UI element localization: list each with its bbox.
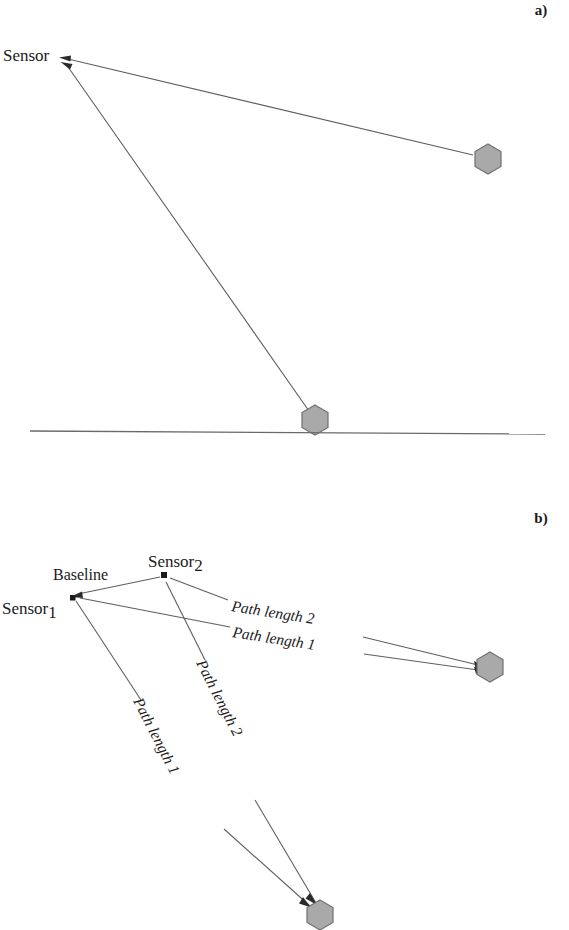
panel-a-ray-ground-target (66, 64, 309, 411)
panel-b-group: Sensor2 Sensor1 Baseline Path length 2 P… (2, 510, 548, 930)
panel-b-sensor1-node (70, 595, 76, 601)
panel-b-sensor2-label-text: Sensor (148, 552, 195, 571)
panel-b-sensor2-label: Sensor2 (148, 552, 203, 575)
panel-b-target-right-hexagon (477, 652, 503, 682)
panel-a-sensor-label: Sensor (3, 46, 50, 65)
panel-b-path1-right-seg2 (364, 654, 478, 670)
panel-b-sensor2-node (161, 572, 167, 578)
panel-b-path1-right-seg1 (80, 598, 230, 627)
panel-a-target-air-hexagon (475, 144, 501, 174)
panel-a-target-ground-hexagon (302, 405, 328, 435)
panel-b-path-length-2-lower-label: Path length 2 (193, 656, 247, 739)
panel-b-sensor1-label: Sensor1 (2, 599, 57, 622)
panel-b-path2-right-seg2 (363, 637, 478, 665)
panel-b-path-length-1-upper-label: Path length 1 (231, 623, 317, 653)
panel-b-target-bottom-hexagon (307, 900, 333, 930)
panel-b-sensor2-subscript: 2 (194, 556, 203, 575)
panel-b-baseline-label: Baseline (53, 566, 108, 583)
panel-b-path-length-1-lower-label: Path length 1 (130, 694, 184, 777)
panel-a-arrowhead-air (59, 56, 71, 62)
panel-b-path-length-2-upper-label: Path length 2 (230, 597, 316, 627)
panel-b-path2-bottom-seg2 (255, 800, 316, 903)
panel-a-ground-line (30, 431, 545, 434)
panel-a-ray-air-target (68, 59, 473, 155)
panel-b-tag: b) (534, 510, 547, 527)
panel-a-arrowhead-ground (61, 62, 73, 70)
panel-a-tag: a) (535, 2, 548, 19)
diagram-canvas: Sensor a) (0, 0, 569, 930)
panel-b-path1-bottom-seg1 (76, 601, 141, 700)
panel-b-sensor1-subscript: 1 (48, 603, 57, 622)
panel-a-group: Sensor a) (3, 2, 547, 435)
panel-b-sensor1-label-text: Sensor (2, 599, 49, 618)
panel-b-path1-bottom-seg2 (224, 829, 310, 906)
panel-b-path2-right-seg1 (170, 578, 228, 600)
figure-root: Sensor a) (0, 0, 569, 930)
